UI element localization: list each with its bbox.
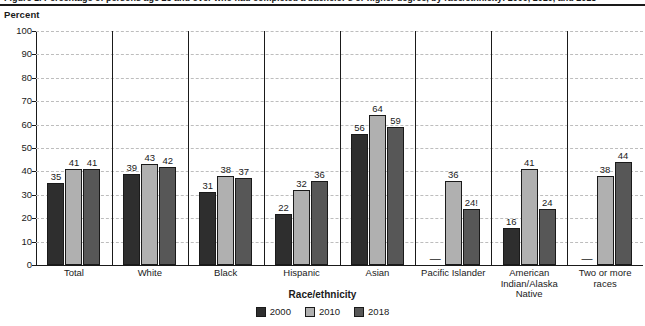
- bar[interactable]: [463, 209, 480, 265]
- bar[interactable]: [141, 164, 158, 265]
- bar-group: 223236: [264, 31, 340, 265]
- bar-value-label: 24: [533, 198, 562, 208]
- bar-group: 354141: [36, 31, 112, 265]
- group-separator: [264, 31, 265, 265]
- bar[interactable]: [159, 167, 176, 265]
- legend-item[interactable]: 2000: [256, 307, 291, 317]
- y-axis-tick-label: 90: [6, 49, 32, 58]
- bar[interactable]: [387, 127, 404, 265]
- bar-group: 566459: [340, 31, 416, 265]
- y-axis-tick-label: 40: [6, 166, 32, 175]
- y-axis-tick-label: 80: [6, 73, 32, 82]
- bar[interactable]: [123, 174, 140, 265]
- y-axis-tick-label: 60: [6, 120, 32, 129]
- legend-label: 2010: [319, 307, 340, 317]
- x-axis-category-label-line: Hispanic: [264, 268, 340, 279]
- bar[interactable]: [83, 169, 100, 265]
- legend-label: 2000: [270, 307, 291, 317]
- bar[interactable]: [199, 192, 216, 265]
- y-axis-title: Percent: [4, 9, 40, 20]
- bar-not-available-marker: —: [579, 253, 596, 263]
- bar-group: —3844: [567, 31, 643, 265]
- legend-swatch: [354, 307, 364, 317]
- x-axis-category-label: Black: [188, 268, 264, 279]
- x-axis-category-label: Hispanic: [264, 268, 340, 279]
- bar-value-label: 41: [77, 158, 106, 168]
- chart-legend: 200020102018: [0, 307, 645, 317]
- x-axis-line: [36, 265, 643, 266]
- group-separator: [567, 31, 568, 265]
- bar[interactable]: [293, 190, 310, 265]
- y-axis-tick-label: 50: [6, 143, 32, 152]
- bar-value-label: 24!: [457, 198, 486, 208]
- figure-caption: Figure 1. Percentage of persons age 25 a…: [4, 0, 641, 3]
- bar[interactable]: [351, 134, 368, 265]
- x-axis-category-label: Two or moreraces: [567, 268, 643, 289]
- y-axis-tick-label: 100: [6, 26, 32, 35]
- bar[interactable]: [235, 178, 252, 265]
- bar-value-label: 36: [305, 170, 334, 180]
- x-axis-category-label-line: White: [112, 268, 188, 279]
- bar-value-label: 41: [515, 158, 544, 168]
- legend-swatch: [305, 307, 315, 317]
- x-axis-category-label-line: American: [491, 268, 567, 279]
- x-axis-category-label: Total: [36, 268, 112, 279]
- x-axis-category-label: White: [112, 268, 188, 279]
- bar[interactable]: [47, 183, 64, 265]
- x-axis-category-label-line: Total: [36, 268, 112, 279]
- x-axis-category-label-line: Pacific Islander: [415, 268, 491, 279]
- legend-item[interactable]: 2018: [354, 307, 389, 317]
- legend-item[interactable]: 2010: [305, 307, 340, 317]
- x-axis-category-label-line: Black: [188, 268, 264, 279]
- bar-value-label: 36: [439, 170, 468, 180]
- x-axis-title: Race/ethnicity: [0, 289, 645, 300]
- bar[interactable]: [275, 214, 292, 265]
- legend-swatch: [256, 307, 266, 317]
- bar[interactable]: [597, 176, 614, 265]
- figure-top-rule: [0, 4, 645, 6]
- y-axis-tick-label: 20: [6, 213, 32, 222]
- bar-value-label: 44: [609, 151, 638, 161]
- bar-not-available-marker: —: [427, 253, 444, 263]
- y-axis-tick: [32, 265, 36, 266]
- group-separator: [491, 31, 492, 265]
- plot-area: 354141394342313837223236566459—3624!1641…: [36, 31, 643, 265]
- bar[interactable]: [369, 115, 386, 265]
- bar[interactable]: [503, 228, 520, 265]
- group-separator: [112, 31, 113, 265]
- bar-value-label: 42: [153, 156, 182, 166]
- x-axis-category-label-line: Two or more: [567, 268, 643, 279]
- bar-value-label: 64: [363, 104, 392, 114]
- y-axis-tick-label: 10: [6, 237, 32, 246]
- x-axis-category-label-line: Asian: [340, 268, 416, 279]
- bar[interactable]: [217, 176, 234, 265]
- bar[interactable]: [445, 181, 462, 265]
- bar[interactable]: [521, 169, 538, 265]
- bar[interactable]: [311, 181, 328, 265]
- group-separator: [415, 31, 416, 265]
- group-separator: [188, 31, 189, 265]
- bar-group: 313837: [188, 31, 264, 265]
- x-axis-category-label: Pacific Islander: [415, 268, 491, 279]
- bar-group: 394342: [112, 31, 188, 265]
- x-axis-category-label-line: races: [567, 279, 643, 290]
- bar[interactable]: [65, 169, 82, 265]
- y-axis-tick-label: 0: [6, 260, 32, 269]
- bar-value-label: 59: [381, 116, 410, 126]
- bar[interactable]: [615, 162, 632, 265]
- y-axis-tick-label: 30: [6, 190, 32, 199]
- group-separator: [340, 31, 341, 265]
- bar-group: 164124: [491, 31, 567, 265]
- bar-group: —3624!: [415, 31, 491, 265]
- y-axis-tick-label: 70: [6, 96, 32, 105]
- bar-value-label: 37: [229, 167, 258, 177]
- x-axis-category-label: Asian: [340, 268, 416, 279]
- bar[interactable]: [539, 209, 556, 265]
- legend-label: 2018: [368, 307, 389, 317]
- y-axis-tick-labels: 0102030405060708090100: [4, 31, 32, 265]
